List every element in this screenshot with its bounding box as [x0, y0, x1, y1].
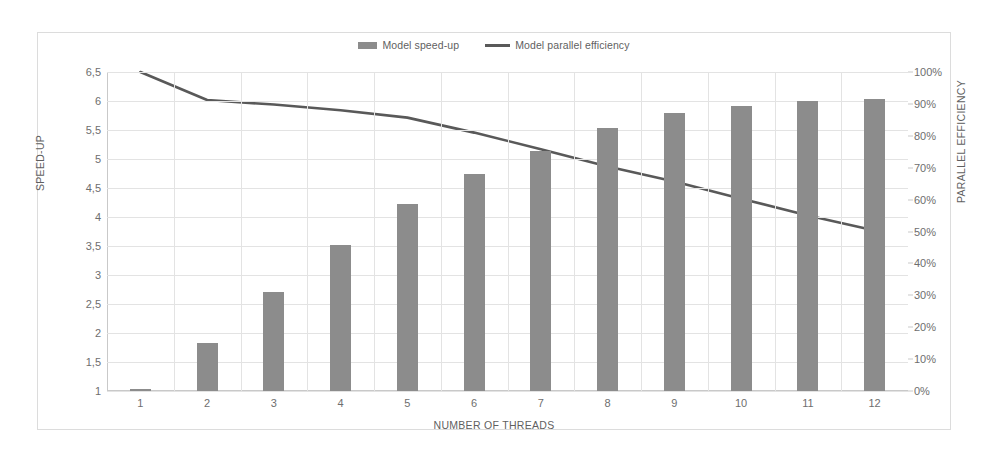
bar-swatch-icon [358, 42, 377, 49]
chart-legend: Model speed-up Model parallel efficiency [38, 39, 950, 51]
vertical-gridline [574, 72, 575, 391]
x-axis-tick-label: 9 [671, 397, 677, 409]
x-axis-ticks: 123456789101112 [107, 397, 908, 415]
y-axis-right-tick-label: 100% [914, 66, 942, 78]
x-axis-title: NUMBER OF THREADS [38, 419, 950, 431]
y-axis-right-tick-mark [908, 231, 913, 232]
y-axis-left-tick-label: 4,5 [86, 182, 101, 194]
vertical-gridline [641, 72, 642, 391]
y-axis-right-tick-mark [908, 103, 913, 104]
y-axis-right-tick-mark [908, 391, 913, 392]
x-axis-tick-label: 11 [802, 397, 813, 409]
x-axis-tick-label: 2 [204, 397, 210, 409]
legend-label-model-parallel-efficiency: Model parallel efficiency [515, 39, 629, 51]
bar [330, 245, 351, 391]
x-axis-tick-label: 10 [735, 397, 747, 409]
x-axis-tick-label: 12 [869, 397, 881, 409]
vertical-gridline [775, 72, 776, 391]
vertical-gridline [307, 72, 308, 391]
line-swatch-icon [485, 44, 510, 47]
y-axis-left-tick-label: 1,5 [86, 356, 101, 368]
x-axis-tick-label: 1 [137, 397, 143, 409]
x-axis-tick-label: 5 [404, 397, 410, 409]
bar [664, 113, 685, 391]
horizontal-gridline [107, 391, 908, 392]
bar [130, 389, 151, 391]
bar [530, 151, 551, 391]
y-axis-right-tick-mark [908, 327, 913, 328]
x-axis-tick-label: 8 [605, 397, 611, 409]
y-axis-left-title: SPEED-UP [34, 135, 46, 191]
bar [197, 343, 218, 391]
y-axis-left-tick-label: 6 [95, 95, 101, 107]
y-axis-left-tick-label: 6,5 [86, 66, 101, 78]
y-axis-left-tick-label: 2,5 [86, 298, 101, 310]
y-axis-left-tick-label: 5,5 [86, 124, 101, 136]
y-axis-right-tick-mark [908, 199, 913, 200]
y-axis-left-tick-label: 3 [95, 269, 101, 281]
y-axis-right-tick-mark [908, 72, 913, 73]
x-axis-tick-label: 6 [471, 397, 477, 409]
vertical-gridline [508, 72, 509, 391]
vertical-gridline [441, 72, 442, 391]
plot-area [107, 72, 908, 391]
y-axis-right-tick-label: 60% [914, 194, 936, 206]
vertical-gridline [241, 72, 242, 391]
y-axis-right-tick-label: 40% [914, 257, 936, 269]
y-axis-right-tick-label: 0% [914, 385, 930, 397]
y-axis-left-ticks: 11,522,533,544,555,566,5 [68, 72, 101, 391]
y-axis-right-tick-label: 70% [914, 162, 936, 174]
y-axis-right-tick-mark [908, 295, 913, 296]
chart-container: Model speed-up Model parallel efficiency… [37, 32, 951, 430]
y-axis-right-tick-mark [908, 167, 913, 168]
vertical-gridline [174, 72, 175, 391]
bar [263, 292, 284, 391]
y-axis-right-tick-mark [908, 135, 913, 136]
y-axis-left-tick-label: 1 [95, 385, 101, 397]
y-axis-right-tick-label: 20% [914, 321, 936, 333]
legend-item-model-speed-up: Model speed-up [358, 39, 459, 51]
y-axis-right-tick-label: 10% [914, 353, 936, 365]
bar [797, 101, 818, 391]
y-axis-right-tick-label: 90% [914, 98, 936, 110]
legend-item-model-parallel-efficiency: Model parallel efficiency [485, 39, 629, 51]
y-axis-left-tick-label: 3,5 [86, 240, 101, 252]
vertical-gridline [374, 72, 375, 391]
y-axis-right-tick-label: 30% [914, 289, 936, 301]
y-axis-left-tick-label: 5 [95, 153, 101, 165]
vertical-gridline [841, 72, 842, 391]
bar [864, 99, 885, 391]
bar [597, 128, 618, 391]
y-axis-right-tick-label: 50% [914, 226, 936, 238]
vertical-gridline [708, 72, 709, 391]
y-axis-left-tick-label: 2 [95, 327, 101, 339]
y-axis-left-tick-label: 4 [95, 211, 101, 223]
bar [731, 106, 752, 391]
y-axis-line [107, 72, 108, 391]
bar [397, 204, 418, 391]
legend-label-model-speed-up: Model speed-up [382, 39, 459, 51]
y-axis-right-tick-mark [908, 359, 913, 360]
bar [464, 174, 485, 392]
y-axis-right-ticks: 0%10%20%30%40%50%60%70%80%90%100% [914, 72, 960, 391]
y-axis-right-tick-mark [908, 263, 913, 264]
x-axis-tick-label: 4 [338, 397, 344, 409]
x-axis-tick-label: 7 [538, 397, 544, 409]
x-axis-tick-label: 3 [271, 397, 277, 409]
y-axis-right-tick-label: 80% [914, 130, 936, 142]
